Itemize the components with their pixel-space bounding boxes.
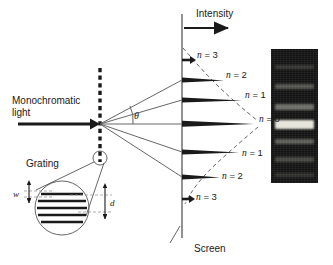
incident-beam-arrow [18, 119, 100, 130]
order-label-n0: n = 0 [259, 114, 280, 125]
slit-spacing-label: d [110, 198, 115, 208]
grating-label: Grating [26, 158, 59, 170]
diffraction-grating-figure: Monochromatic light Grating Intensity Sc… [0, 0, 333, 265]
screen-leader-line [170, 226, 180, 243]
fringe-band [275, 84, 314, 89]
screen-label: Screen [194, 243, 226, 255]
peak-n2-up [182, 78, 224, 83]
order-label-n2-down: n = 2 [222, 171, 243, 182]
order-label-n1-up: n = 1 [245, 90, 266, 101]
peak-n2-down [182, 175, 220, 180]
peak-n1-up [182, 97, 242, 102]
fringe-band [275, 173, 314, 177]
fringe-band-central [275, 120, 314, 129]
slit-width-label: w [13, 189, 19, 199]
peak-n3-up [182, 56, 196, 64]
fringe-band [275, 139, 314, 144]
peak-n3-down [182, 195, 195, 203]
diffracted-rays [100, 80, 182, 177]
theta-label: θ [134, 110, 139, 122]
order-label-n1-down: n = 1 [242, 148, 263, 159]
fringe-band [275, 65, 314, 69]
order-label-n2-up: n = 2 [226, 70, 247, 81]
source-label-line2: light [12, 107, 30, 119]
order-label-n3-down: n = 3 [196, 192, 217, 203]
peak-n0 [182, 121, 254, 127]
fringe-band [275, 157, 314, 162]
inset-slit-lines [37, 194, 87, 222]
order-label-n3-up: n = 3 [197, 50, 218, 61]
source-label-line1: Monochromatic [12, 95, 80, 107]
fringe-band [275, 104, 314, 110]
intensity-label: Intensity [196, 8, 233, 20]
